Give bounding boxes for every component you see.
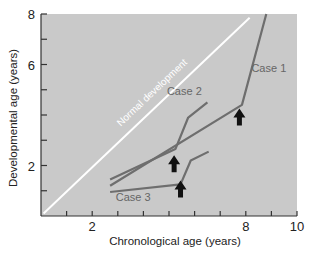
case-1-label: Case 1 <box>251 62 286 74</box>
case-3-label: Case 3 <box>116 191 151 203</box>
y-tick-label: 6 <box>28 58 35 73</box>
x-tick-label: 2 <box>89 219 96 234</box>
chart: Normal developmentCase 1Case 2Case 3 281… <box>0 0 312 256</box>
y-tick-label: 2 <box>28 159 35 174</box>
y-tick-label: 8 <box>28 7 35 22</box>
x-tick-label: 10 <box>290 219 304 234</box>
x-axis-title: Chronological age (years) <box>109 235 241 247</box>
case-2-label: Case 2 <box>167 85 202 97</box>
x-tick-label: 8 <box>242 219 249 234</box>
y-axis-title: Developmental age (years) <box>7 49 19 187</box>
